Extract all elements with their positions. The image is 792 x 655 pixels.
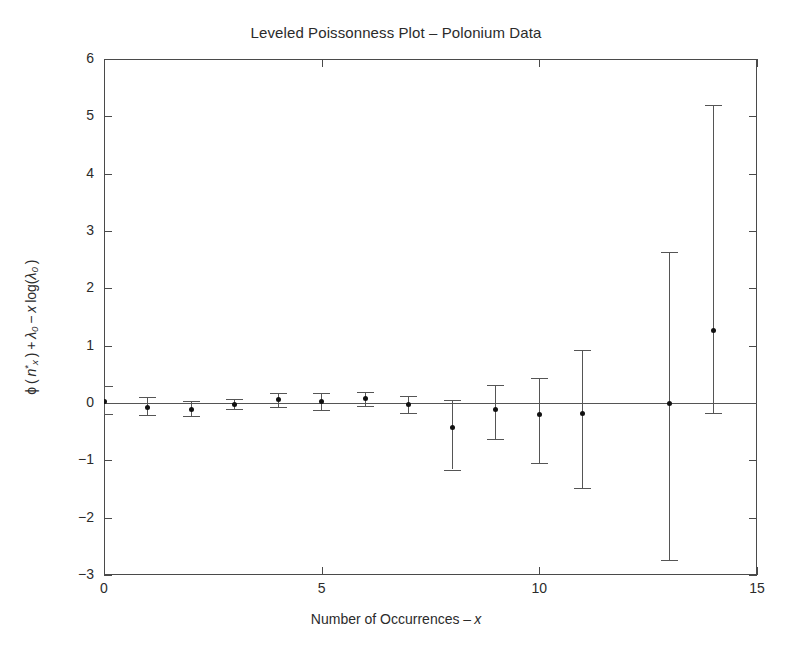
chart-figure: Leveled Poissonness Plot – Polonium Data… [0, 0, 792, 655]
y-tick-right [749, 575, 757, 576]
error-bar-cap-upper [183, 401, 200, 402]
data-point [189, 407, 194, 412]
data-point [145, 405, 150, 410]
error-bar-cap-lower [444, 470, 461, 471]
y-tick-label: 0 [60, 394, 94, 410]
error-bar-cap-upper [313, 393, 330, 394]
data-point [232, 402, 237, 407]
error-bar-cap-lower [357, 406, 374, 407]
error-bar-cap-lower [226, 409, 243, 410]
x-tick-label: 5 [302, 580, 342, 596]
data-point [319, 399, 324, 404]
error-bar-cap-lower [574, 488, 591, 489]
chart-title: Leveled Poissonness Plot – Polonium Data [0, 24, 792, 41]
data-point [276, 397, 281, 402]
x-axis-title-variable: x [471, 611, 481, 627]
error-bar [452, 400, 453, 469]
data-point [406, 402, 411, 407]
error-bar-cap-lower [400, 413, 417, 414]
error-bar-cap-lower [104, 414, 113, 415]
data-point [493, 407, 498, 412]
error-bar [582, 350, 583, 489]
error-bar-cap-upper [270, 393, 287, 394]
error-bar-cap-upper [705, 105, 722, 106]
error-bar-cap-lower [270, 407, 287, 408]
data-point [580, 411, 585, 416]
error-bar-cap-upper [574, 350, 591, 351]
error-bar-cap-lower [487, 439, 504, 440]
x-tick-top [757, 59, 758, 67]
y-tick-label: 2 [60, 279, 94, 295]
y-tick-label: −1 [60, 451, 94, 467]
error-bar [713, 105, 714, 413]
error-bar-cap-upper [487, 385, 504, 386]
error-bar-cap-lower [661, 560, 678, 561]
error-bar-cap-upper [104, 386, 113, 387]
y-axis-title: ϕ ( n*x ) + λ0 − x log(λ0 ) [22, 157, 40, 497]
x-tick-label: 0 [84, 580, 124, 596]
plot-data-area [104, 59, 757, 575]
y-tick-label: 3 [60, 222, 94, 238]
data-point [104, 399, 107, 404]
error-bar-cap-upper [661, 252, 678, 253]
x-axis-title: Number of Occurrences –x [0, 611, 792, 627]
error-bar-cap-upper [139, 397, 156, 398]
x-tick-label: 15 [737, 580, 777, 596]
y-tick-label: 1 [60, 337, 94, 353]
error-bar-cap-lower [705, 413, 722, 414]
data-point [711, 328, 716, 333]
x-tick-label: 10 [519, 580, 559, 596]
error-bar-cap-upper [400, 396, 417, 397]
error-bar-cap-lower [183, 416, 200, 417]
error-bar-cap-lower [531, 463, 548, 464]
y-tick-label: 4 [60, 165, 94, 181]
data-point [537, 412, 542, 417]
y-tick-label: 6 [60, 50, 94, 66]
x-axis-title-text: Number of Occurrences – [311, 611, 471, 627]
error-bar [539, 378, 540, 462]
x-tick [757, 567, 758, 575]
error-bar-cap-upper [226, 399, 243, 400]
error-bar-cap-upper [444, 400, 461, 401]
y-tick-label: 5 [60, 107, 94, 123]
error-bar-cap-lower [139, 415, 156, 416]
data-point [450, 425, 455, 430]
y-tick [104, 575, 112, 576]
y-tick-label: −2 [60, 509, 94, 525]
error-bar-cap-lower [313, 410, 330, 411]
data-point [667, 401, 672, 406]
data-point [363, 396, 368, 401]
reference-line-zero [104, 403, 757, 404]
error-bar-cap-upper [531, 378, 548, 379]
error-bar-cap-upper [357, 392, 374, 393]
